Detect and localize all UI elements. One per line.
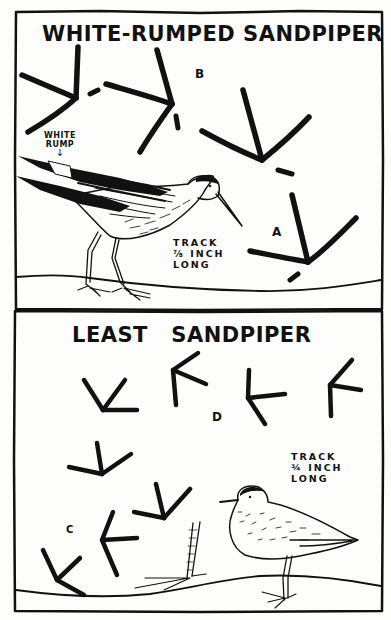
track-d-1 [84, 380, 137, 410]
track-note-line: ¾ INCH [291, 462, 343, 473]
track-note-line: LONG [173, 259, 225, 270]
track-c-1 [69, 443, 131, 474]
track-heel [290, 274, 298, 280]
track-a-lower [250, 195, 356, 262]
track-c-4 [43, 550, 84, 595]
illustration-plate [0, 0, 391, 620]
track-note-line: LONG [291, 473, 343, 484]
white-rump-label: WHITE RUMP ↓ [44, 132, 76, 158]
foot-closeup-drawing [135, 522, 206, 590]
track-heel [176, 116, 178, 128]
track-b-right [106, 50, 172, 152]
track-letter-d: D [212, 411, 222, 423]
track-c-3 [102, 512, 137, 575]
track-note-line: TRACK [173, 237, 225, 248]
track-d-4 [330, 360, 361, 416]
white-rumped-sandpiper-drawing [16, 156, 242, 300]
track-a-upper [202, 90, 309, 160]
panel-title-least-sandpiper: LEAST SANDPIPER [72, 325, 311, 346]
track-note-line: TRACK [291, 451, 343, 462]
track-heel [90, 90, 98, 94]
track-letter-b: B [195, 68, 204, 80]
arrow-down-icon: ↓ [44, 149, 76, 158]
track-letter-a: A [272, 226, 281, 238]
panel-title-white-rumped-sandpiper: WHITE-RUMPED SANDPIPER [42, 24, 383, 45]
ground-line [16, 276, 381, 291]
least-sandpiper-drawing [220, 486, 358, 608]
track-d-3 [248, 370, 285, 424]
track-letter-c: C [66, 525, 73, 535]
track-note-line: ⅞ INCH [173, 248, 225, 259]
track-size-note-white-rumped: TRACK ⅞ INCH LONG [173, 237, 225, 270]
track-b-left [22, 47, 78, 132]
track-c-2 [134, 484, 190, 518]
track-heel [278, 170, 292, 174]
track-size-note-least: TRACK ¾ INCH LONG [291, 451, 343, 484]
track-d-2 [173, 353, 206, 405]
